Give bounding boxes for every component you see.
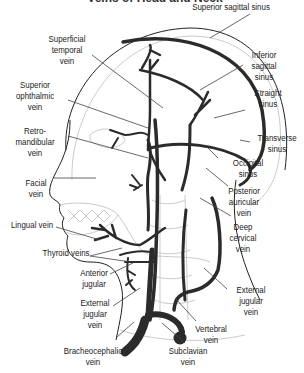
label-superior-ophthalmic-vein: Superior ophthalmic vein xyxy=(8,80,61,113)
label-inferior-sagittal-sinus: Inferior sagittal sinus xyxy=(238,50,290,83)
label-straight-sinus: Straight sinus xyxy=(249,88,287,110)
label-external-jugular-vein-right: External jugular vein xyxy=(230,285,273,318)
label-occipital-sinus: Occipital sinus xyxy=(226,158,271,180)
label-bracheocephalic-vein: Bracheocephalic vein xyxy=(56,346,130,368)
label-posterior-auricular-vein: Posterior auricular vein xyxy=(218,186,270,219)
label-subclavian-vein: Subclavian vein xyxy=(164,346,212,368)
label-superficial-temporal-vein: Superficial temporal vein xyxy=(40,34,93,67)
label-facial-vein: Facial vein xyxy=(17,178,55,200)
label-lingual-vein: Lingual vein xyxy=(6,220,58,231)
label-superior-sagittal-sinus: Superior sagittal sinus xyxy=(167,2,296,13)
label-external-jugular-vein-left: External jugular vein xyxy=(75,298,115,331)
label-thyroid-veins: Thyroid veins xyxy=(38,248,93,259)
label-anterior-jugular: Anterior jugular xyxy=(73,268,114,290)
label-deep-cervical-vein: Deep cervical vein xyxy=(223,222,263,255)
label-transverse-sinus: Transverse sinus xyxy=(252,133,302,155)
label-vertebral-vein: Vertebral vein xyxy=(190,324,233,346)
label-retromandibular-vein: Retro- mandibular vein xyxy=(7,126,64,159)
